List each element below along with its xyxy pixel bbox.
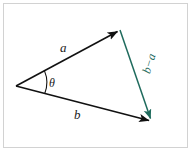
angle-theta-label: θ	[49, 77, 55, 89]
vector-diagram-figure: a b θ b−a	[0, 0, 191, 151]
vector-a-label: a	[60, 41, 67, 54]
vector-b-label: b	[74, 108, 81, 121]
angle-theta-arc	[45, 71, 47, 94]
vector-diagram-canvas	[0, 0, 191, 151]
vector-b-minus-a-line	[120, 30, 151, 119]
vector-b-line	[16, 86, 149, 121]
